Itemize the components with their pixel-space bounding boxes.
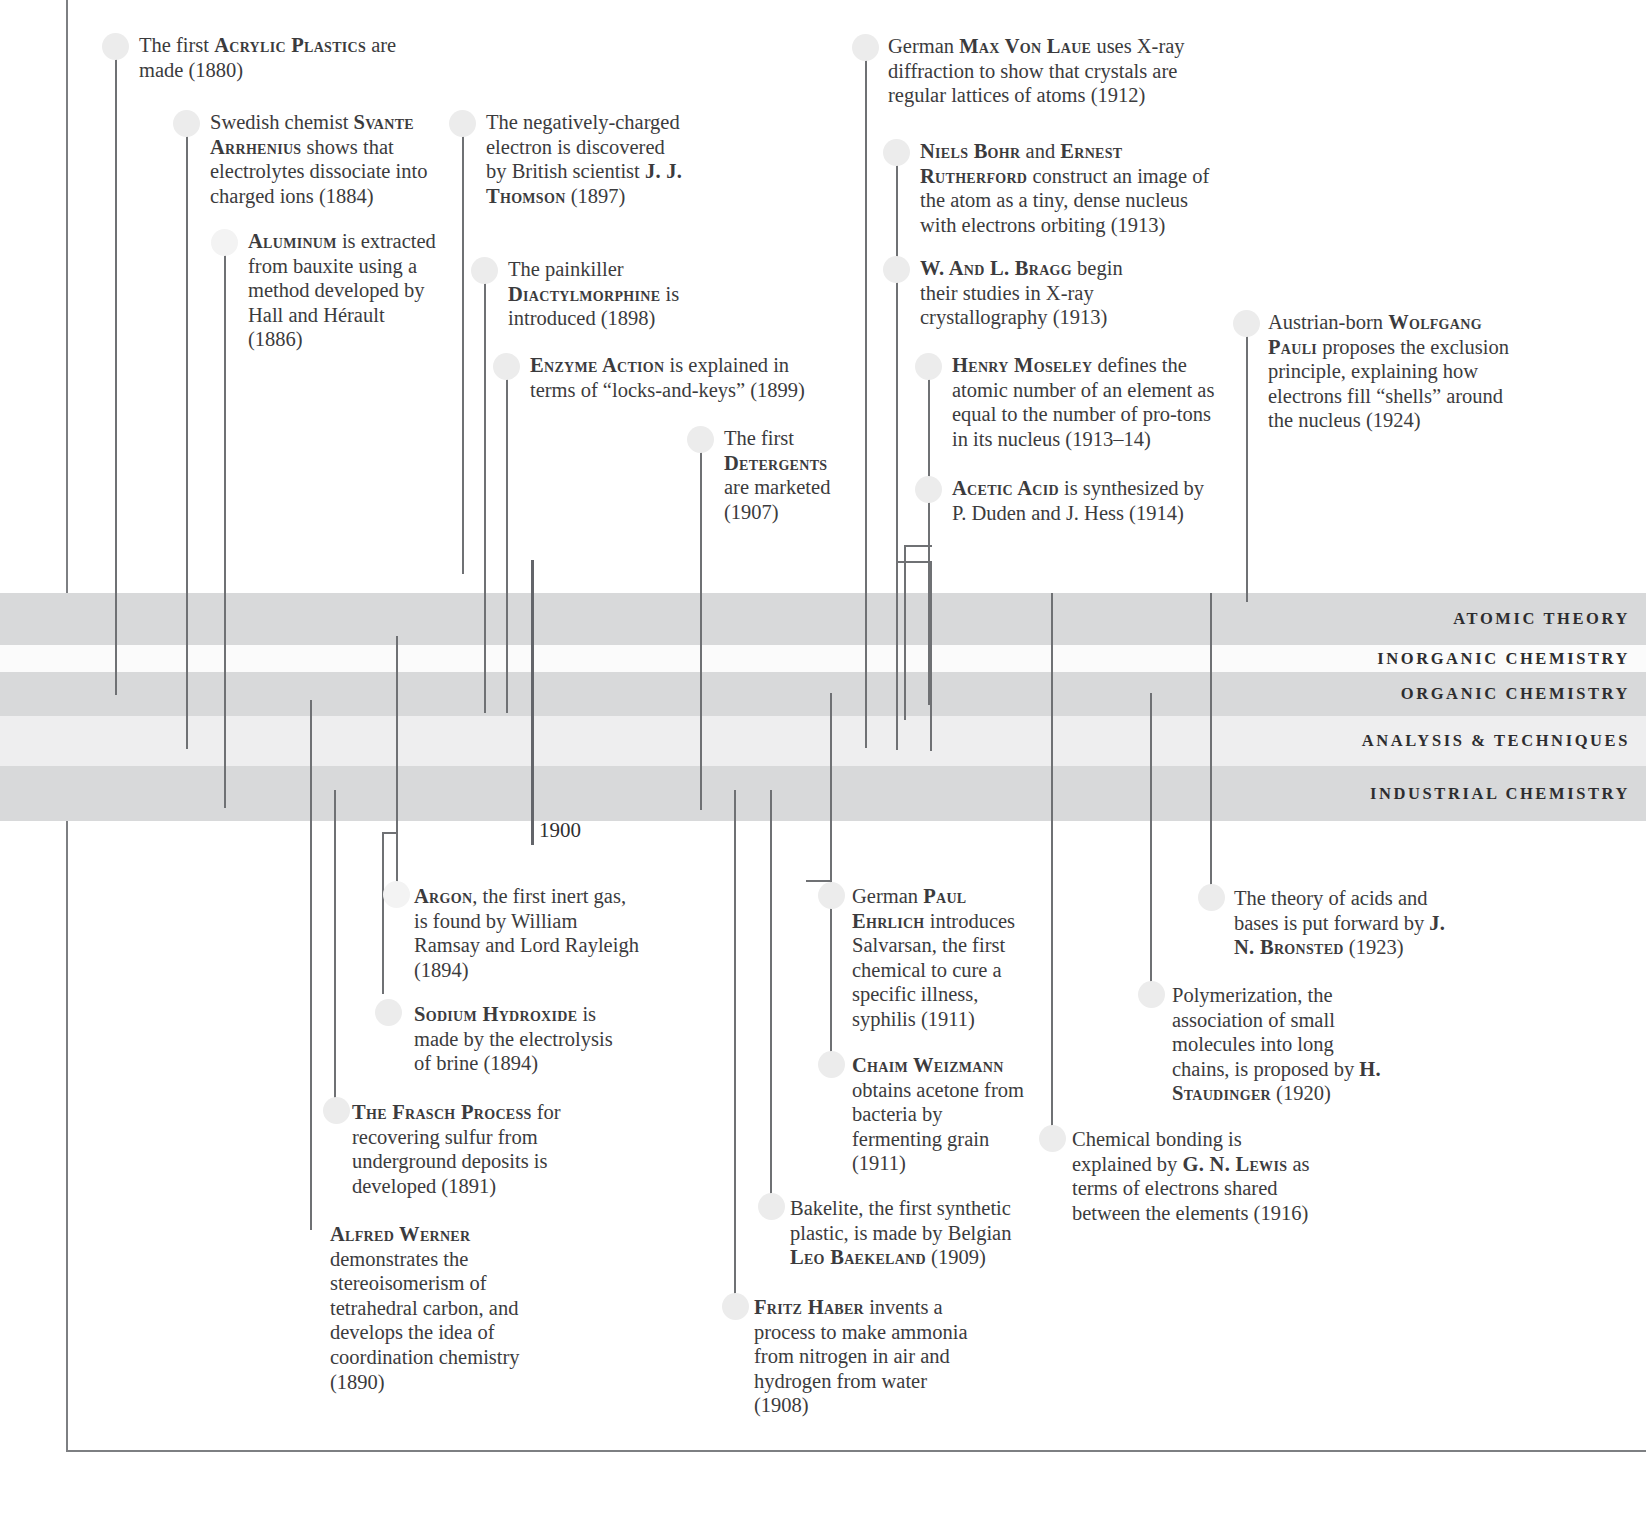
entry-key-term: W. And L. Bragg [920,257,1072,279]
entry-text: are marketed (1907) [724,476,830,523]
stem-wolfgang-pauli [1246,334,1248,602]
entry-acetic-acid: Acetic Acid is synthesized by P. Duden a… [952,476,1222,525]
entry-key-term: Argon [414,885,472,907]
entry-max-von-laue: German Max Von Laue uses X-ray diffracti… [888,34,1210,108]
stem-alfred-werner [310,700,312,1230]
entry-text: Swedish chemist [210,111,354,133]
year-marker-line [531,560,534,845]
stem-fritz-haber [734,790,736,1305]
bullet-acetic-acid[interactable] [915,476,942,503]
entry-key-term: Acrylic Plastics [214,34,366,56]
stem-max-von-laue [865,58,867,748]
stem-acetic-acid [928,500,930,705]
entry-text: Bakelite, the first synthetic plastic, i… [790,1197,1011,1244]
stem-bronsted [1210,593,1212,898]
bullet-argon[interactable] [383,881,410,908]
elbow-bohr-rutherford [896,561,932,563]
category-band-label: INORGANIC CHEMISTRY [1377,649,1630,669]
entry-text: German [888,35,959,57]
entry-electron-thomson: The negatively-charged electron is disco… [486,110,686,208]
bullet-paul-ehrlich[interactable] [818,882,845,909]
entry-bragg: W. And L. Bragg begin their studies in X… [920,256,1152,330]
stem-svante-arrhenius [186,134,188,749]
bullet-bronsted[interactable] [1198,884,1225,911]
entry-text: (1923) [1344,936,1404,958]
stem-paul-ehrlich [830,693,832,893]
stem-sodium-hydroxide [382,862,384,994]
entry-chaim-weizmann: Chaim Weizmann obtains acetone from bact… [852,1053,1032,1176]
stem-gn-lewis [1051,593,1053,1143]
bullet-bragg[interactable] [883,256,910,283]
entry-text: The first [724,427,794,449]
entry-text: (1920) [1271,1082,1331,1104]
stem-chaim-weizmann [830,893,832,1063]
bullet-enzyme-action[interactable] [493,353,520,380]
timeline-page: ATOMIC THEORYINORGANIC CHEMISTRYORGANIC … [0,0,1646,1521]
bullet-staudinger[interactable] [1138,981,1165,1008]
entry-key-term: Diactylmorphine [508,283,660,305]
entry-text: The first [139,34,214,56]
bullet-diactylmorphine[interactable] [471,257,498,284]
entry-key-term: Max Von Laue [959,35,1091,57]
category-band-label: ANALYSIS & TECHNIQUES [1362,731,1630,751]
entry-key-term: G. N. Lewis [1182,1153,1287,1175]
entry-henry-moseley: Henry Moseley defines the atomic number … [952,353,1218,451]
bullet-detergents[interactable] [687,426,714,453]
bullet-frasch-process[interactable] [323,1097,350,1124]
bullet-acrylic-plastics[interactable] [102,33,129,60]
bullet-sodium-hydroxide[interactable] [375,999,402,1026]
page-frame-bottom-rule [66,1450,1646,1452]
entry-text: obtains acetone from bacteria by ferment… [852,1079,1024,1175]
entry-bakelite: Bakelite, the first synthetic plastic, i… [790,1196,1016,1270]
entry-text: German [852,885,923,907]
bullet-henry-moseley[interactable] [915,353,942,380]
bullet-bakelite[interactable] [758,1193,785,1220]
bullet-max-von-laue[interactable] [852,34,879,61]
bullet-gn-lewis[interactable] [1039,1125,1066,1152]
entry-text: and [1020,140,1060,162]
stem-henry-moseley-b [904,545,906,720]
category-band-label: ORGANIC CHEMISTRY [1401,684,1630,704]
entry-key-term: Acetic Acid [952,477,1059,499]
bullet-aluminum[interactable] [211,229,238,256]
stem-bragg [896,280,898,750]
entry-text: Polymerization, the association of small… [1172,984,1359,1080]
entry-text: (1897) [566,185,626,207]
category-band-industrial-chemistry: INDUSTRIAL CHEMISTRY [0,766,1646,821]
entry-text: The painkiller [508,258,624,280]
entry-diactylmorphine: The painkiller Diactylmorphine is introd… [508,257,704,331]
category-band-atomic-theory: ATOMIC THEORY [0,593,1646,645]
stem-bakelite [770,790,772,1205]
category-band-inorganic-chemistry: INORGANIC CHEMISTRY [0,645,1646,672]
stem-frasch-process [334,790,336,1110]
entry-frasch-process: The Frasch Process for recovering sulfur… [352,1100,600,1198]
category-band-analysis-techniques: ANALYSIS & TECHNIQUES [0,716,1646,766]
category-band-label: ATOMIC THEORY [1453,609,1630,629]
stem-argon [396,636,398,894]
entry-acrylic-plastics: The first Acrylic Plastics are made (188… [139,33,399,82]
bullet-svante-arrhenius[interactable] [173,110,200,137]
entry-key-term: Fritz Haber [754,1296,864,1318]
entry-sodium-hydroxide: Sodium Hydroxide is made by the electrol… [414,1002,634,1076]
entry-bronsted: The theory of acids and bases is put for… [1234,886,1452,960]
entry-key-term: Alfred Werner [330,1223,470,1245]
stem-staudinger [1150,693,1152,993]
entry-text: (1909) [926,1246,986,1268]
stem-diactylmorphine [484,281,486,713]
bullet-fritz-haber[interactable] [722,1293,749,1320]
stem-detergents [700,450,702,810]
entry-bohr-rutherford: Niels Bohr and Ernest Rutherford constru… [920,139,1218,237]
bullet-electron-thomson[interactable] [449,110,476,137]
bullet-wolfgang-pauli[interactable] [1233,310,1260,337]
bullet-chaim-weizmann[interactable] [818,1051,845,1078]
entry-key-term: Enzyme Action [530,354,664,376]
entry-key-term: Chaim Weizmann [852,1054,1004,1076]
entry-key-term: The Frasch Process [352,1101,532,1123]
stem-enzyme-action [506,377,508,713]
elbow-argon [382,832,398,834]
bullet-bohr-rutherford[interactable] [883,139,910,166]
entry-enzyme-action: Enzyme Action is explained in terms of “… [530,353,820,402]
entry-fritz-haber: Fritz Haber invents a process to make am… [754,1295,986,1418]
stem-aluminum [224,253,226,808]
entry-key-term: Sodium Hydroxide [414,1003,577,1025]
